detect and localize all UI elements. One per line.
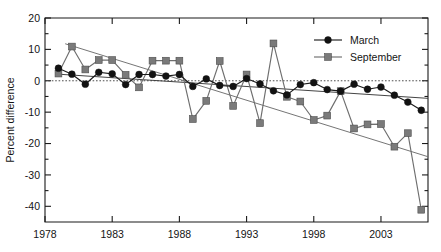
y-tick-label: 20 [28,12,40,24]
y-tick-label: -30 [25,169,40,181]
march-data-point [364,86,371,93]
march-data-point [189,83,196,90]
september-data-point [189,116,196,123]
march-data-point [297,81,304,88]
march-data-point [216,82,223,89]
march-data-point [270,87,277,94]
percent-difference-line-chart: 20100-10-20-30-40 1978198319881993199820… [0,0,441,252]
september-data-point [230,102,237,109]
march-data-point [230,83,237,90]
chart-figure: 20100-10-20-30-40 1978198319881993199820… [0,0,441,252]
y-axis-title: Percent difference [4,77,16,162]
march-data-point [378,84,385,91]
march-data-point [82,81,89,88]
march-data-point [257,81,264,88]
x-tick-label: 1978 [33,228,57,240]
september-data-point [216,58,223,65]
x-tick-label: 2003 [369,228,393,240]
september-data-point [136,84,143,91]
september-data-point [163,57,170,64]
september-data-point [95,57,102,64]
march-data-point [109,70,116,77]
march-data-point [351,81,358,88]
march-data-point [176,71,183,78]
september-data-point [270,40,277,47]
y-tick-label: 0 [34,75,40,87]
september-data-point [351,125,358,132]
march-data-point [136,71,143,78]
march-data-point [163,73,170,80]
september-data-point [404,130,411,137]
september-data-point [378,121,385,128]
september-data-point [149,57,156,64]
september-data-point [68,43,75,50]
march-data-point [68,71,75,78]
september-data-point [176,57,183,64]
september-data-point [257,120,264,127]
x-tick-label: 1998 [302,228,326,240]
september-data-point [122,71,129,78]
y-tick-label: -40 [25,200,40,212]
legend-september-square-icon [325,54,332,61]
march-data-point [310,79,317,86]
september-data-point [324,112,331,119]
x-tick-label: 1988 [168,228,192,240]
september-data-point [82,66,89,73]
march-data-point [404,99,411,106]
x-tick-label: 1983 [101,228,125,240]
y-tick-label: 10 [28,43,40,55]
september-data-point [297,98,304,105]
march-data-point [337,88,344,95]
september-data-point [310,117,317,124]
september-data-point [203,97,210,104]
legend-label-september: September [350,51,402,63]
march-data-point [203,75,210,82]
march-data-point [149,71,156,78]
march-data-point [55,65,62,72]
march-data-point [418,107,425,114]
x-tick-label: 1993 [235,228,259,240]
march-data-point [324,86,331,93]
y-tick-label: -20 [25,137,40,149]
september-data-point [364,121,371,128]
september-data-point [418,206,425,213]
march-data-point [391,92,398,99]
march-data-point [283,91,290,98]
september-data-point [391,143,398,150]
legend-march-circle-icon [325,37,332,44]
september-data-point [109,57,116,64]
march-data-point [243,75,250,82]
y-tick-label: -10 [25,106,40,118]
march-data-point [122,81,129,88]
march-data-point [95,69,102,76]
legend-label-march: March [350,34,379,46]
